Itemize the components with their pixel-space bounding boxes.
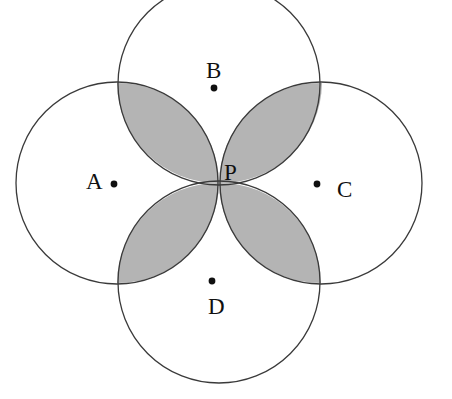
circle-a-center-dot	[111, 181, 118, 188]
label-b: B	[206, 58, 221, 83]
geometry-figure: A B C D P	[0, 0, 452, 399]
circle-b-center-dot	[211, 85, 218, 92]
circle-d-center-dot	[209, 278, 216, 285]
label-a: A	[86, 169, 103, 194]
label-c: C	[337, 177, 352, 202]
figure-canvas: A B C D P	[0, 0, 452, 399]
label-p: P	[224, 160, 237, 185]
label-d: D	[208, 294, 225, 319]
circle-c-center-dot	[314, 181, 321, 188]
